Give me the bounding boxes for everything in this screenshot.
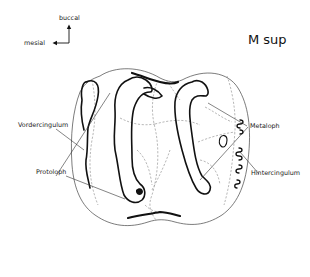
dashed-valley-lines bbox=[90, 76, 235, 220]
metaloph-label: Metaloph bbox=[250, 122, 280, 130]
enamel-island bbox=[219, 136, 227, 148]
vordercingulum-ridge bbox=[86, 81, 99, 188]
buccal-cingulum-ridge bbox=[132, 73, 178, 84]
vordercingulum-label: Vordercingulum bbox=[18, 121, 68, 129]
mesial-label: mesial bbox=[24, 39, 45, 47]
metaloph-crest bbox=[175, 81, 211, 194]
protoloph-pit bbox=[136, 188, 143, 195]
molar-diagram: buccal mesial M sup bbox=[0, 0, 310, 277]
leader-lines bbox=[56, 93, 259, 199]
figure-title: M sup bbox=[248, 32, 287, 47]
lingual-cingulum-ridge bbox=[128, 212, 180, 218]
buccal-label: buccal bbox=[59, 14, 80, 22]
orientation-indicator: buccal mesial bbox=[24, 14, 80, 47]
protoloph-label: Protoloph bbox=[36, 168, 66, 176]
hintercingulum-label: Hintercingulum bbox=[251, 169, 300, 177]
arrow-left-head-icon bbox=[53, 41, 58, 45]
vordercingulum-loop bbox=[81, 82, 86, 130]
arrow-up-head-icon bbox=[67, 25, 71, 30]
